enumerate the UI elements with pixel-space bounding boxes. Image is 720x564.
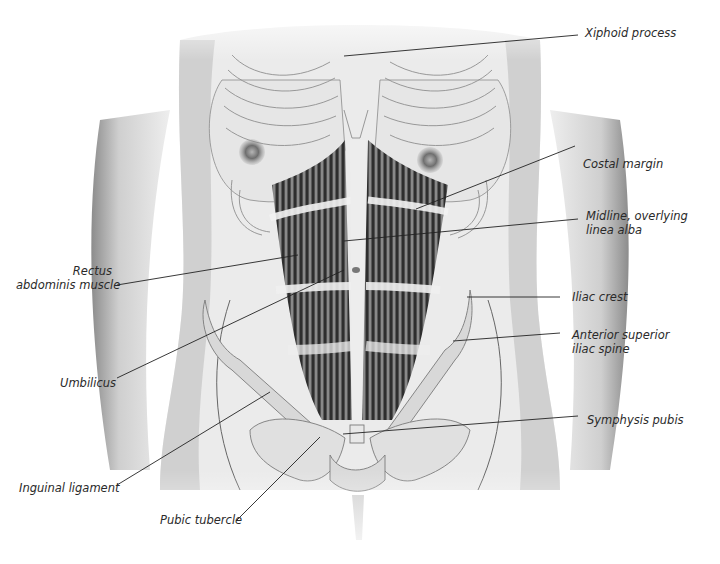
- label-line: Pubic tubercle: [160, 513, 242, 527]
- label-line: linea alba: [586, 223, 688, 237]
- anatomy-figure: Xiphoid processCostal marginMidline, ove…: [0, 0, 720, 564]
- label-line: Inguinal ligament: [19, 481, 119, 495]
- label-anterior-superior-iliac-spine: Anterior superioriliac spine: [572, 328, 669, 356]
- label-pubic-tubercle: Pubic tubercle: [160, 513, 242, 527]
- label-rectus-abdominis: Rectusabdominis muscle: [16, 264, 112, 292]
- label-midline-linea-alba: Midline, overlyinglinea alba: [586, 209, 688, 237]
- label-line: Anterior superior: [572, 328, 669, 342]
- label-xiphoid-process: Xiphoid process: [585, 26, 676, 40]
- label-symphysis-pubis: Symphysis pubis: [587, 413, 684, 427]
- label-costal-margin: Costal margin: [583, 157, 663, 171]
- label-iliac-crest: Iliac crest: [572, 290, 627, 304]
- label-umbilicus: Umbilicus: [60, 376, 112, 390]
- label-line: iliac spine: [572, 342, 669, 356]
- label-line: Costal margin: [583, 157, 663, 171]
- label-line: Iliac crest: [572, 290, 627, 304]
- label-inguinal-ligament: Inguinal ligament: [19, 481, 119, 495]
- label-line: Midline, overlying: [586, 209, 688, 223]
- label-line: Symphysis pubis: [587, 413, 684, 427]
- label-line: abdominis muscle: [16, 278, 112, 292]
- label-line: Umbilicus: [60, 376, 112, 390]
- label-line: Xiphoid process: [585, 26, 676, 40]
- label-line: Rectus: [16, 264, 112, 278]
